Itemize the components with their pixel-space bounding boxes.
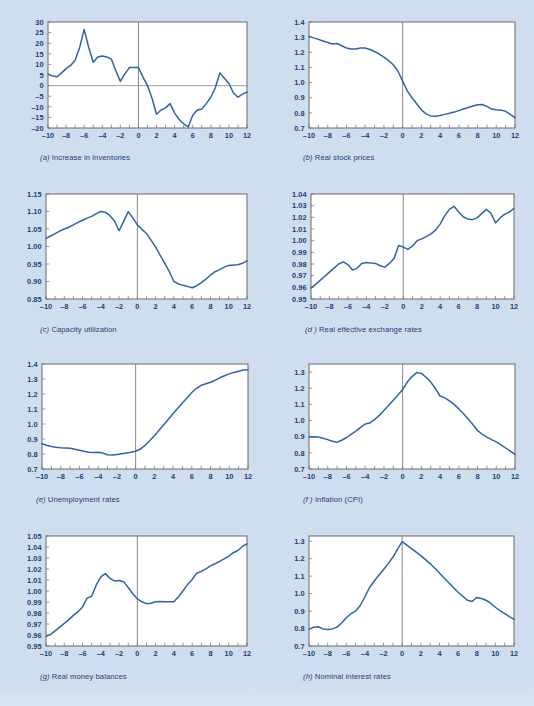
svg-text:1.02: 1.02 <box>27 565 41 574</box>
caption-d-prefix: (d ) <box>305 325 317 334</box>
svg-text:0: 0 <box>135 302 139 311</box>
svg-text:–8: –8 <box>324 131 332 140</box>
svg-text:6: 6 <box>456 649 460 658</box>
svg-text:4: 4 <box>172 649 177 658</box>
caption-g-title: Real money balances <box>52 672 127 681</box>
panel-g: 0.950.960.970.980.991.001.011.021.031.04… <box>0 520 267 706</box>
svg-text:1.00: 1.00 <box>27 587 41 596</box>
caption-a-title: Increase in inventories <box>52 153 130 162</box>
svg-text:–2: –2 <box>379 649 387 658</box>
svg-text:–8: –8 <box>60 649 68 658</box>
svg-text:1.01: 1.01 <box>292 225 306 234</box>
svg-text:0.9: 0.9 <box>294 607 304 616</box>
svg-text:4: 4 <box>173 131 178 140</box>
svg-text:–8: –8 <box>324 472 332 481</box>
svg-text:1.2: 1.2 <box>294 384 304 393</box>
svg-text:–4: –4 <box>361 649 370 658</box>
svg-text:6: 6 <box>190 472 194 481</box>
svg-text:2: 2 <box>154 131 158 140</box>
svg-text:–15: –15 <box>31 113 43 122</box>
svg-text:1.05: 1.05 <box>27 225 41 234</box>
svg-text:1.01: 1.01 <box>27 576 41 585</box>
svg-text:2: 2 <box>154 649 158 658</box>
svg-text:6: 6 <box>457 472 461 481</box>
svg-text:1.2: 1.2 <box>27 390 37 399</box>
caption-e-prefix: (e) <box>36 495 46 504</box>
chart-a[interactable]: –20–15–10–5051015202530–10–8–6–4–2024681… <box>0 0 267 178</box>
svg-text:8: 8 <box>208 649 212 658</box>
svg-text:25: 25 <box>35 28 43 37</box>
svg-text:–10: –10 <box>31 103 43 112</box>
svg-text:0.98: 0.98 <box>27 609 41 618</box>
svg-text:12: 12 <box>243 302 251 311</box>
svg-text:4: 4 <box>438 131 443 140</box>
caption-a: (a) Increase in inventories <box>40 153 130 162</box>
panel-h: 0.70.80.91.01.11.21.3–10–8–6–4–202468101… <box>267 520 534 706</box>
svg-text:1.4: 1.4 <box>27 360 38 369</box>
svg-text:4: 4 <box>172 302 177 311</box>
svg-text:0.9: 0.9 <box>294 93 304 102</box>
svg-text:0.98: 0.98 <box>292 260 306 269</box>
svg-text:15: 15 <box>35 50 43 59</box>
svg-text:–2: –2 <box>380 472 388 481</box>
caption-c: (c) Capacity utilization <box>40 325 117 334</box>
svg-text:–6: –6 <box>78 302 86 311</box>
svg-text:1.02: 1.02 <box>292 213 306 222</box>
svg-text:–8: –8 <box>62 131 70 140</box>
svg-text:–8: –8 <box>325 302 333 311</box>
svg-text:1.1: 1.1 <box>27 405 37 414</box>
caption-e: (e) Unemployment rates <box>36 495 120 504</box>
svg-text:0: 0 <box>401 131 405 140</box>
svg-text:0.90: 0.90 <box>27 277 41 286</box>
svg-text:12: 12 <box>510 649 518 658</box>
svg-text:0: 0 <box>135 649 139 658</box>
svg-text:0.99: 0.99 <box>27 598 41 607</box>
svg-text:1.0: 1.0 <box>27 420 37 429</box>
svg-text:10: 10 <box>225 302 233 311</box>
svg-text:–6: –6 <box>80 131 88 140</box>
svg-text:2: 2 <box>152 472 156 481</box>
svg-text:1.15: 1.15 <box>27 190 41 199</box>
svg-text:–10: –10 <box>36 472 48 481</box>
svg-text:–6: –6 <box>75 472 83 481</box>
svg-text:0: 0 <box>39 81 43 90</box>
svg-text:1.0: 1.0 <box>294 78 304 87</box>
svg-text:8: 8 <box>475 131 479 140</box>
svg-text:–2: –2 <box>115 649 123 658</box>
svg-text:1.00: 1.00 <box>292 236 306 245</box>
svg-text:2: 2 <box>154 302 158 311</box>
panel-c: 0.850.900.951.001.051.101.15–10–8–6–4–20… <box>0 178 267 350</box>
svg-text:2: 2 <box>419 649 423 658</box>
svg-text:0.8: 0.8 <box>27 450 37 459</box>
panel-d: 0.950.960.970.980.991.001.011.021.031.04… <box>267 178 534 350</box>
svg-text:–10: –10 <box>42 131 54 140</box>
svg-text:1.10: 1.10 <box>27 207 41 216</box>
svg-text:–4: –4 <box>361 472 370 481</box>
svg-text:1.3: 1.3 <box>294 537 304 546</box>
svg-text:1.04: 1.04 <box>27 543 42 552</box>
svg-text:10: 10 <box>492 131 500 140</box>
svg-text:–4: –4 <box>94 472 103 481</box>
caption-b: (b) Real stock prices <box>303 153 374 162</box>
svg-text:–10: –10 <box>303 131 315 140</box>
svg-text:8: 8 <box>208 472 212 481</box>
chart-b[interactable]: 0.70.80.91.01.11.21.31.4–10–8–6–4–202468… <box>267 0 534 178</box>
svg-text:1.3: 1.3 <box>27 375 37 384</box>
svg-text:–2: –2 <box>381 302 389 311</box>
svg-text:–10: –10 <box>303 472 315 481</box>
svg-text:1.2: 1.2 <box>294 48 304 57</box>
svg-text:–2: –2 <box>116 131 124 140</box>
svg-text:30: 30 <box>35 18 43 27</box>
svg-text:2: 2 <box>419 472 423 481</box>
svg-text:6: 6 <box>191 131 195 140</box>
svg-text:12: 12 <box>244 472 252 481</box>
svg-text:4: 4 <box>438 472 443 481</box>
svg-text:10: 10 <box>35 60 43 69</box>
caption-g: (g) Real money balances <box>40 672 127 681</box>
panel-grid: –20–15–10–5051015202530–10–8–6–4–2024681… <box>0 0 534 706</box>
caption-c-prefix: (c) <box>40 325 49 334</box>
figure-sheet: –20–15–10–5051015202530–10–8–6–4–2024681… <box>0 0 534 706</box>
svg-text:1.03: 1.03 <box>292 201 306 210</box>
svg-text:8: 8 <box>208 302 212 311</box>
svg-text:10: 10 <box>492 472 500 481</box>
